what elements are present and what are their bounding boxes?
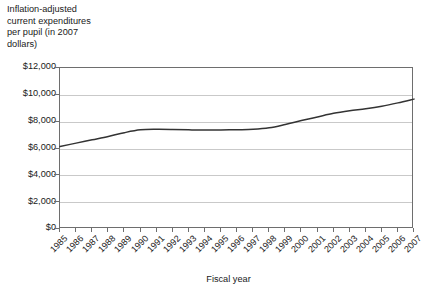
x-tick-mark-1996: [236, 228, 237, 232]
expenditures-line: [60, 99, 414, 146]
x-tick-mark-2000: [300, 228, 301, 232]
plot-area: [59, 67, 413, 228]
x-tick-mark-2004: [365, 228, 366, 232]
x-tick-mark-1995: [220, 228, 221, 232]
x-tick-mark-1999: [284, 228, 285, 232]
x-tick-mark-1998: [268, 228, 269, 232]
x-tick-mark-1992: [172, 228, 173, 232]
x-tick-mark-1990: [140, 228, 141, 232]
y-tick-label-0: $0: [0, 223, 56, 232]
x-tick-mark-1993: [188, 228, 189, 232]
y-tick-label-12000: $12,000: [0, 62, 56, 71]
x-tick-mark-2006: [397, 228, 398, 232]
line-chart-figure: Inflation-adjusted current expenditures …: [0, 0, 427, 296]
y-axis-title: Inflation-adjusted current expenditures …: [7, 4, 139, 50]
y-tick-label-10000: $10,000: [0, 89, 56, 98]
y-tick-label-2000: $2,000: [0, 197, 56, 206]
x-tick-mark-2001: [317, 228, 318, 232]
y-tick-label-6000: $6,000: [0, 143, 56, 152]
x-tick-mark-1985: [59, 228, 60, 232]
x-tick-mark-1994: [204, 228, 205, 232]
x-tick-mark-2003: [349, 228, 350, 232]
x-tick-mark-1986: [75, 228, 76, 232]
x-tick-mark-1997: [252, 228, 253, 232]
x-tick-mark-2005: [381, 228, 382, 232]
y-tick-label-4000: $4,000: [0, 170, 56, 179]
x-tick-mark-2002: [333, 228, 334, 232]
x-tick-mark-1988: [107, 228, 108, 232]
x-tick-mark-1991: [156, 228, 157, 232]
x-tick-mark-2007: [413, 228, 414, 232]
data-series-line: [60, 68, 414, 229]
x-tick-mark-1989: [123, 228, 124, 232]
y-tick-label-8000: $8,000: [0, 116, 56, 125]
x-tick-mark-1987: [91, 228, 92, 232]
x-axis-title: Fiscal year: [0, 274, 427, 284]
